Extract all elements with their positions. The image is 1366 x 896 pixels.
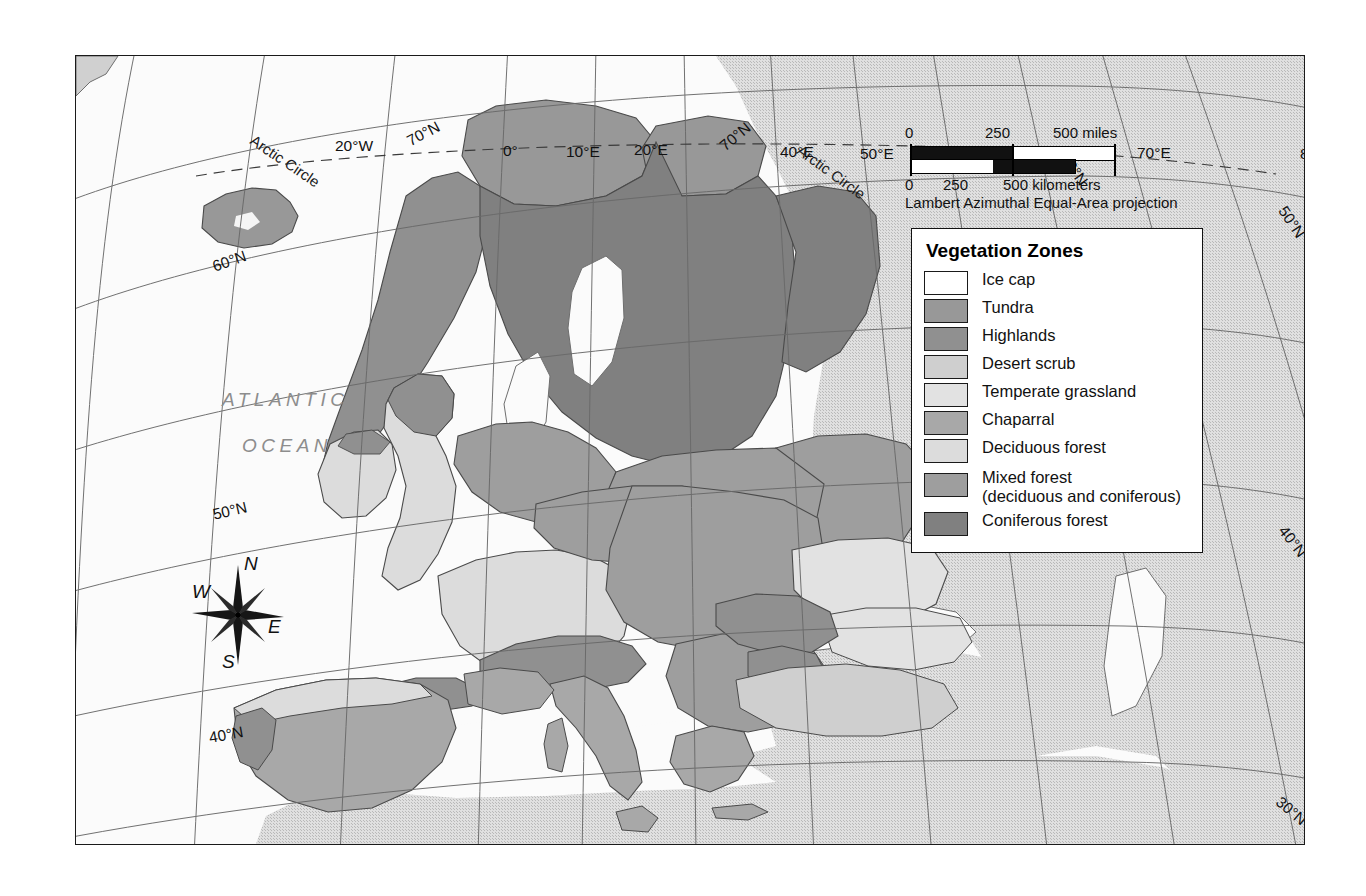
legend-swatch-temperate-grassland	[924, 383, 968, 407]
scale-miles-0: 0	[905, 124, 913, 141]
scale-tick-right	[1114, 144, 1116, 176]
grid-label-20e-top: 20°E	[634, 142, 668, 158]
legend-label-mixed-forest: Mixed forest (deciduous and coniferous)	[982, 468, 1181, 506]
atlantic-ocean-label-line1: ATLANTIC	[222, 389, 348, 411]
legend-item-deciduous-forest[interactable]: Deciduous forest	[924, 438, 1190, 463]
compass-rose: N E S W	[186, 551, 291, 676]
legend-swatch-mixed-forest	[924, 473, 968, 497]
legend-item-coniferous-forest[interactable]: Coniferous forest	[924, 511, 1190, 536]
scale-bar-kilometers	[910, 159, 1076, 174]
legend-label-highlands: Highlands	[982, 326, 1055, 345]
grid-label-50n-west: 50°N	[211, 499, 248, 522]
map-page: 20°W 70°N 0° 10°E 20°E 70°N 40°E 50°E 60…	[0, 0, 1366, 896]
legend-panel: Vegetation Zones Ice cap Tundra Highland…	[911, 228, 1203, 553]
arctic-circle-label-west: Arctic Circle	[247, 131, 323, 190]
scale-miles-250: 250	[985, 124, 1010, 141]
compass-label-south: S	[222, 651, 235, 673]
compass-label-east: E	[268, 616, 281, 638]
legend-label-coniferous-forest: Coniferous forest	[982, 511, 1108, 530]
legend-swatch-tundra	[924, 299, 968, 323]
grid-label-60n-west: 60°N	[210, 248, 248, 274]
legend-label-ice-cap: Ice cap	[982, 270, 1035, 289]
legend-item-chaparral[interactable]: Chaparral	[924, 410, 1190, 435]
legend-label-deciduous-forest: Deciduous forest	[982, 438, 1106, 457]
legend-swatch-chaparral	[924, 411, 968, 435]
legend-item-ice-cap[interactable]: Ice cap	[924, 270, 1190, 295]
legend-swatch-deciduous-forest	[924, 439, 968, 463]
compass-star-icon	[186, 551, 291, 676]
grid-label-40n-east: 40°N	[1276, 523, 1305, 560]
legend-swatch-highlands	[924, 327, 968, 351]
scale-km-500: 500 kilometers	[1003, 176, 1101, 193]
grid-label-50e-top: 50°E	[860, 146, 894, 162]
grid-label-70n-east: 70°N	[717, 120, 753, 154]
legend-label-temperate-grassland: Temperate grassland	[982, 382, 1136, 401]
scale-miles-500: 500 miles	[1053, 124, 1117, 141]
scale-bar: 0 250 500 miles 0 250 500 kilometers Lam…	[905, 118, 1235, 213]
legend-swatch-desert-scrub	[924, 355, 968, 379]
legend-label-mixed-forest-line1: Mixed forest	[982, 468, 1181, 487]
legend-swatch-ice-cap	[924, 271, 968, 295]
scale-tick-left	[910, 144, 912, 176]
legend-label-mixed-forest-line2: (deciduous and coniferous)	[982, 487, 1181, 506]
compass-label-west: W	[192, 581, 210, 603]
atlantic-ocean-label-line2: OCEAN	[242, 435, 332, 457]
legend-label-desert-scrub: Desert scrub	[982, 354, 1076, 373]
legend-item-highlands[interactable]: Highlands	[924, 326, 1190, 351]
arctic-circle-label-east: Arctic Circle	[794, 142, 869, 203]
legend-item-desert-scrub[interactable]: Desert scrub	[924, 354, 1190, 379]
grid-label-40n-west: 40°N	[208, 724, 245, 745]
legend-label-chaparral: Chaparral	[982, 410, 1054, 429]
projection-note: Lambert Azimuthal Equal-Area projection	[905, 194, 1178, 211]
scale-bar-kilometers-fill	[993, 160, 1075, 173]
grid-label-10e-top: 10°E	[566, 144, 600, 160]
grid-label-50n-east: 50°N	[1276, 203, 1305, 240]
grid-label-30n-east: 30°N	[1273, 794, 1305, 828]
grid-label-20w: 20°W	[335, 138, 373, 154]
compass-label-north: N	[244, 553, 258, 575]
legend-title: Vegetation Zones	[926, 240, 1190, 262]
grid-label-80e-top: 80°E	[1300, 146, 1305, 162]
legend-item-mixed-forest[interactable]: Mixed forest (deciduous and coniferous)	[924, 468, 1190, 506]
legend-label-tundra: Tundra	[982, 298, 1034, 317]
scale-km-250: 250	[943, 176, 968, 193]
legend-item-tundra[interactable]: Tundra	[924, 298, 1190, 323]
legend-item-temperate-grassland[interactable]: Temperate grassland	[924, 382, 1190, 407]
legend-swatch-coniferous-forest	[924, 512, 968, 536]
scale-km-0: 0	[905, 176, 913, 193]
grid-label-70n-west: 70°N	[404, 119, 442, 149]
scale-tick-mid	[1012, 144, 1014, 176]
grid-label-0-top: 0°	[503, 143, 518, 159]
